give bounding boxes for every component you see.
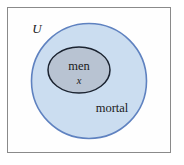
- universe-label: U: [32, 21, 43, 36]
- element-x-label: x: [76, 75, 82, 86]
- men-label: men: [68, 59, 90, 73]
- mortal-label: mortal: [96, 101, 129, 115]
- diagram-canvas: U men x mortal: [0, 0, 184, 165]
- euler-diagram-figure: U men x mortal: [0, 0, 184, 165]
